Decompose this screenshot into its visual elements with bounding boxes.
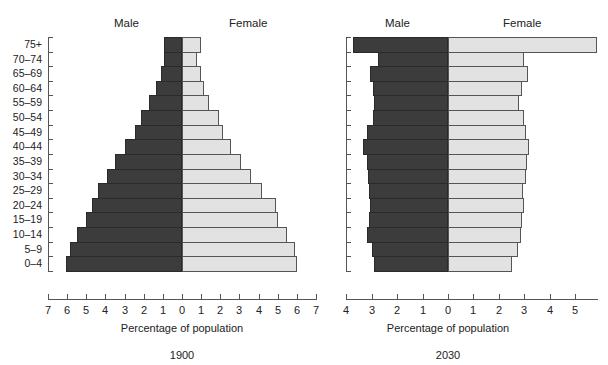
x-axis-tick <box>499 294 500 300</box>
y-axis-tick <box>48 271 53 272</box>
x-tick-label: 5 <box>83 304 89 316</box>
female-bar <box>182 183 262 199</box>
female-bar <box>182 227 287 243</box>
age-group-label: 70–74 <box>0 53 42 65</box>
x-tick-label: 0 <box>179 304 185 316</box>
x-tick-label: 3 <box>236 304 242 316</box>
y-axis-tick <box>48 95 53 96</box>
male-bar <box>141 110 182 126</box>
x-tick-label: 2 <box>394 304 400 316</box>
y-axis-tick <box>346 66 351 67</box>
age-group-label: 10–14 <box>0 228 42 240</box>
male-bar <box>368 169 448 185</box>
female-bar <box>182 154 241 170</box>
x-axis-tick <box>125 294 126 300</box>
female-bar <box>182 242 295 258</box>
y-axis-tick <box>346 52 351 53</box>
x-tick-label: 6 <box>64 304 70 316</box>
x-axis-tick <box>239 294 240 300</box>
female-bar <box>182 198 276 214</box>
y-axis-tick <box>346 227 351 228</box>
x-axis-tick <box>220 294 221 300</box>
x-axis-tick <box>105 294 106 300</box>
x-tick-label: 1 <box>198 304 204 316</box>
female-bar <box>448 183 523 199</box>
male-bar <box>367 154 448 170</box>
y-axis-tick <box>346 242 351 243</box>
y-axis-tick <box>346 110 351 111</box>
x-axis-tick <box>550 294 551 300</box>
age-group-label: 75+ <box>0 38 42 50</box>
male-bar <box>98 183 182 199</box>
x-tick-label: 3 <box>369 304 375 316</box>
female-bar <box>448 52 524 68</box>
x-tick-label: 0 <box>445 304 451 316</box>
male-bar <box>373 81 448 97</box>
male-bar <box>373 110 448 126</box>
x-tick-label: 7 <box>313 304 319 316</box>
female-bar <box>182 52 197 68</box>
x-axis-tick <box>297 294 298 300</box>
male-bar <box>125 139 182 155</box>
male-bar <box>369 183 448 199</box>
x-axis-title: Percentage of population <box>387 322 509 334</box>
y-axis-tick <box>48 37 53 38</box>
male-bar <box>363 139 448 155</box>
male-bar <box>374 95 448 111</box>
x-axis-tick <box>524 294 525 300</box>
female-bar <box>182 256 297 272</box>
female-bar <box>448 154 527 170</box>
y-axis-tick <box>48 242 53 243</box>
male-bar <box>135 125 182 141</box>
x-axis-tick <box>473 294 474 300</box>
age-group-label: 65–69 <box>0 67 42 79</box>
y-axis-tick <box>48 139 53 140</box>
y-axis-tick <box>346 154 351 155</box>
x-axis-tick <box>182 294 183 300</box>
female-bar <box>182 81 204 97</box>
x-tick-label: 6 <box>294 304 300 316</box>
y-axis-tick <box>48 110 53 111</box>
age-group-label: 5–9 <box>0 243 42 255</box>
y-axis-tick <box>48 125 53 126</box>
female-bar <box>448 169 526 185</box>
male-bar <box>156 81 182 97</box>
x-axis-tick <box>259 294 260 300</box>
male-bar <box>372 242 448 258</box>
male-bar <box>370 66 448 82</box>
x-tick-label: 3 <box>521 304 527 316</box>
male-bar <box>70 242 182 258</box>
male-bar <box>378 52 448 68</box>
male-bar <box>86 212 182 228</box>
x-tick-label: 7 <box>45 304 51 316</box>
x-tick-label: 5 <box>572 304 578 316</box>
age-group-label: 15–19 <box>0 213 42 225</box>
male-bar <box>369 212 448 228</box>
y-axis-tick <box>48 256 53 257</box>
age-group-label: 50–54 <box>0 111 42 123</box>
male-bar <box>161 66 182 82</box>
female-bar <box>448 95 519 111</box>
y-axis-tick <box>48 52 53 53</box>
male-bar <box>107 169 182 185</box>
female-bar <box>448 110 524 126</box>
male-bar <box>149 95 182 111</box>
female-header: Female <box>229 17 267 29</box>
x-tick-label: 1 <box>160 304 166 316</box>
male-header: Male <box>385 17 410 29</box>
x-tick-label: 3 <box>122 304 128 316</box>
x-axis-tick <box>423 294 424 300</box>
female-bar <box>182 37 201 53</box>
x-axis-tick <box>201 294 202 300</box>
age-group-label: 0–4 <box>0 257 42 269</box>
y-axis-tick <box>48 212 53 213</box>
y-axis-tick <box>346 81 351 82</box>
female-bar <box>448 212 522 228</box>
male-bar <box>374 256 448 272</box>
x-axis-tick <box>144 294 145 300</box>
x-axis-tick <box>397 294 398 300</box>
x-axis-tick <box>67 294 68 300</box>
age-group-label: 60–64 <box>0 82 42 94</box>
y-axis-tick <box>346 183 351 184</box>
female-bar <box>448 37 597 53</box>
